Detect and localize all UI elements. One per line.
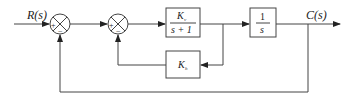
input-label: R(s)	[26, 8, 47, 22]
output-signal: C(s)	[276, 8, 340, 24]
summing-junction-1: + −	[50, 14, 70, 36]
forward-block: K v s + 1	[166, 8, 200, 37]
integrator-block: 1 s	[250, 8, 276, 37]
minus-sign: −	[58, 27, 63, 36]
minus-sign: −	[116, 27, 121, 36]
svg-text:s + 1: s + 1	[171, 24, 192, 35]
output-label: C(s)	[306, 8, 327, 22]
svg-text:s: s	[260, 24, 264, 35]
edge-feedback-to-sum2	[118, 35, 166, 65]
input-signal: R(s)	[14, 8, 49, 24]
feedback-block: K h	[166, 51, 200, 78]
block-diagram: R(s) + − + − K v s + 1 1 s C(s)	[0, 0, 357, 103]
plus-sign: +	[109, 21, 114, 30]
plus-sign: +	[51, 21, 56, 30]
summing-junction-2: + −	[108, 14, 128, 36]
svg-text:1: 1	[260, 11, 265, 22]
edge-to-feedback-block	[201, 24, 223, 65]
